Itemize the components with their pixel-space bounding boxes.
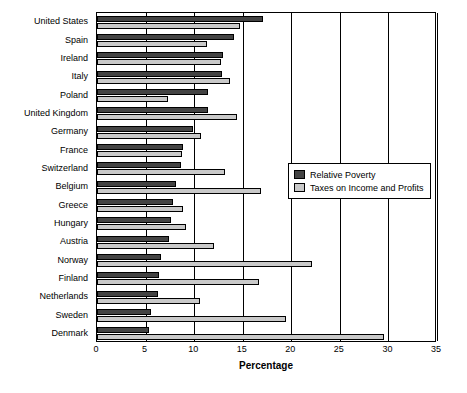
bar-chart: United StatesSpainIrelandItalyPolandUnit… bbox=[0, 0, 467, 393]
y-axis-label: Finland bbox=[58, 273, 88, 283]
bar-group bbox=[97, 327, 435, 340]
y-axis-label: Ireland bbox=[60, 53, 88, 63]
bar bbox=[97, 243, 214, 249]
bar bbox=[97, 309, 151, 315]
bar-group bbox=[97, 291, 435, 304]
bar bbox=[97, 316, 286, 322]
bar bbox=[97, 23, 240, 29]
x-axis-title: Percentage bbox=[96, 360, 436, 371]
x-axis-tick-label: 15 bbox=[237, 344, 247, 355]
bar bbox=[97, 59, 221, 65]
bar bbox=[97, 96, 168, 102]
bar bbox=[97, 34, 234, 40]
bar bbox=[97, 114, 237, 120]
y-axis-labels: United StatesSpainIrelandItalyPolandUnit… bbox=[0, 12, 92, 342]
y-axis-label: Belgium bbox=[55, 181, 88, 191]
bar bbox=[97, 217, 171, 223]
bar bbox=[97, 78, 230, 84]
x-axis-tick-label: 5 bbox=[142, 344, 147, 355]
bar bbox=[97, 279, 259, 285]
y-axis-label: Austria bbox=[60, 236, 88, 246]
bar bbox=[97, 254, 161, 260]
bar bbox=[97, 334, 384, 340]
bar bbox=[97, 206, 183, 212]
legend-label: Taxes on Income and Profits bbox=[310, 183, 424, 193]
bar-group bbox=[97, 272, 435, 285]
y-axis-label: Greece bbox=[58, 200, 88, 210]
x-axis-tick-label: 10 bbox=[188, 344, 198, 355]
legend-item-relative-poverty: Relative Poverty bbox=[294, 168, 424, 181]
bar-group bbox=[97, 34, 435, 47]
bar bbox=[97, 327, 149, 333]
y-axis-label: Poland bbox=[60, 90, 88, 100]
bar-group bbox=[97, 126, 435, 139]
bar bbox=[97, 133, 201, 139]
bar-group bbox=[97, 71, 435, 84]
gridline bbox=[437, 13, 438, 341]
bar bbox=[97, 41, 207, 47]
bar bbox=[97, 107, 208, 113]
bar bbox=[97, 71, 222, 77]
bar-group bbox=[97, 107, 435, 120]
bar-group bbox=[97, 309, 435, 322]
bar-group bbox=[97, 144, 435, 157]
bar bbox=[97, 291, 158, 297]
bar bbox=[97, 151, 182, 157]
y-axis-label: Italy bbox=[71, 71, 88, 81]
y-axis-label: United States bbox=[34, 16, 88, 26]
x-axis-tick-label: 0 bbox=[93, 344, 98, 355]
y-axis-label: Spain bbox=[65, 35, 88, 45]
legend-swatch-icon bbox=[294, 170, 305, 179]
y-axis-label: Germany bbox=[51, 126, 88, 136]
bar bbox=[97, 236, 169, 242]
legend-swatch-icon bbox=[294, 183, 305, 192]
x-axis-tick-label: 35 bbox=[431, 344, 441, 355]
bar bbox=[97, 181, 176, 187]
x-axis-tick-label: 30 bbox=[382, 344, 392, 355]
bar-group bbox=[97, 217, 435, 230]
bar-group bbox=[97, 16, 435, 29]
bar bbox=[97, 162, 181, 168]
bar bbox=[97, 144, 183, 150]
y-axis-label: Hungary bbox=[54, 218, 88, 228]
legend-label: Relative Poverty bbox=[310, 170, 376, 180]
x-axis-tick-label: 25 bbox=[334, 344, 344, 355]
bar bbox=[97, 126, 193, 132]
y-axis-label: Netherlands bbox=[39, 291, 88, 301]
bar bbox=[97, 169, 225, 175]
bar bbox=[97, 52, 223, 58]
bar bbox=[97, 224, 186, 230]
y-axis-label: France bbox=[60, 145, 88, 155]
y-axis-label: Denmark bbox=[51, 328, 88, 338]
bar bbox=[97, 188, 261, 194]
x-axis-tick-labels: 05101520253035 bbox=[96, 344, 436, 358]
y-axis-label: Norway bbox=[57, 255, 88, 265]
chart-legend: Relative Poverty Taxes on Income and Pro… bbox=[288, 163, 431, 199]
x-axis-tick-label: 20 bbox=[285, 344, 295, 355]
bar bbox=[97, 199, 173, 205]
y-axis-label: United Kingdom bbox=[24, 108, 88, 118]
bar-group bbox=[97, 199, 435, 212]
bar-group bbox=[97, 52, 435, 65]
bar bbox=[97, 16, 263, 22]
bar-group bbox=[97, 89, 435, 102]
y-axis-label: Switzerland bbox=[41, 163, 88, 173]
bar bbox=[97, 272, 159, 278]
legend-item-taxes-on-income-and-profits: Taxes on Income and Profits bbox=[294, 181, 424, 194]
bar bbox=[97, 261, 312, 267]
bar-group bbox=[97, 236, 435, 249]
bar bbox=[97, 298, 200, 304]
bar-group bbox=[97, 254, 435, 267]
bar bbox=[97, 89, 208, 95]
y-axis-label: Sweden bbox=[55, 310, 88, 320]
